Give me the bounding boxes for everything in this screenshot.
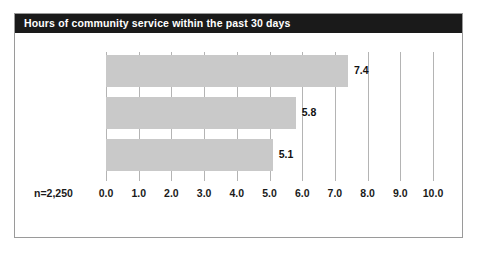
chart-frame: Hours of community service within the pa…	[14, 13, 463, 238]
bar-value-label: 5.8	[302, 106, 317, 118]
x-tick-label: 7.0	[328, 187, 343, 199]
bar	[106, 55, 348, 87]
x-tick-label: 3.0	[197, 187, 212, 199]
x-tick-label: 2.0	[164, 187, 179, 199]
bar-value-label: 5.1	[279, 148, 294, 160]
bar	[106, 97, 296, 129]
x-tick-label: 4.0	[229, 187, 244, 199]
sample-size-annotation: n=2,250	[34, 187, 73, 199]
chart-title-bar: Hours of community service within the pa…	[15, 14, 462, 33]
bar	[106, 139, 273, 171]
bar-value-label: 7.4	[354, 64, 369, 76]
x-tick-label: 5.0	[262, 187, 277, 199]
gridline	[400, 52, 401, 181]
x-tick-label: 1.0	[131, 187, 146, 199]
chart-title: Hours of community service within the pa…	[24, 17, 291, 29]
gridline	[433, 52, 434, 181]
x-axis-tick-labels: 0.01.02.03.04.05.06.07.08.09.010.0	[106, 187, 433, 201]
x-tick-label: 9.0	[393, 187, 408, 199]
x-tick-label: 0.0	[99, 187, 114, 199]
x-tick-label: 10.0	[423, 187, 443, 199]
x-tick-label: 6.0	[295, 187, 310, 199]
x-tick-label: 8.0	[360, 187, 375, 199]
plot-area: 7.4Heavy users5.8Light users5.1Nonusers	[106, 52, 433, 181]
